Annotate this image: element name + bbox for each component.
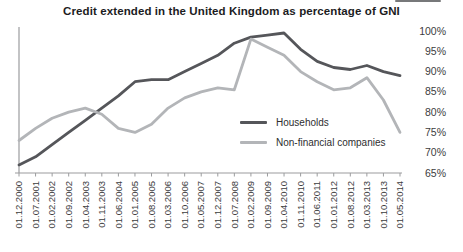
x-tick-label: 01.12.2000: [13, 181, 24, 229]
x-tick-label: 01.01.2012: [328, 181, 339, 229]
x-tick-label: 01.08.2005: [146, 181, 157, 229]
y-tick-label: 90%: [425, 65, 446, 77]
x-tick-label: 01.03.2013: [361, 181, 372, 229]
legend-label: Non-financial companies: [276, 137, 386, 148]
legend: Households Non-financial companies: [240, 116, 386, 149]
legend-swatch: [240, 121, 267, 124]
y-tick-label: 75%: [425, 126, 446, 138]
x-tick-label: 01.11.2003: [96, 181, 107, 228]
y-tick-label: 80%: [425, 106, 446, 118]
x-tick-label: 01.08.2012: [345, 181, 356, 229]
x-tick-label: 01.04.2010: [278, 181, 289, 229]
legend-label: Households: [276, 117, 329, 128]
chart-figure: Credit extended in the United Kingdom as…: [0, 0, 463, 252]
x-tick-label: 01.06.2004: [113, 181, 124, 229]
x-tick-label: 01.01.2005: [129, 181, 140, 229]
legend-item-households: Households: [240, 116, 386, 129]
y-tick-label: 100%: [419, 25, 446, 37]
x-tick-label: 01.05.2014: [394, 181, 405, 229]
legend-swatch: [240, 141, 267, 144]
x-tick-label: 01.07.2001: [30, 181, 41, 229]
x-tick-label: 01.06.2011: [311, 181, 322, 228]
x-tick-label: 01.10.2013: [378, 181, 389, 229]
y-tick-label: 95%: [425, 45, 446, 57]
x-tick-label: 01.11.2010: [295, 181, 306, 228]
y-tick-label: 85%: [425, 85, 446, 97]
y-tick-label: 70%: [425, 146, 446, 158]
x-tick-label: 01.12.2007: [212, 181, 223, 229]
x-tick-label: 01.02.2002: [46, 181, 57, 229]
x-tick-label: 01.05.2007: [195, 181, 206, 229]
line-chart: 01.12.200001.07.200101.02.200201.09.2002…: [0, 0, 463, 252]
legend-item-non-financial-companies: Non-financial companies: [240, 136, 386, 149]
x-tick-label: 01.09.2002: [63, 181, 74, 229]
x-tick-label: 01.10.2006: [179, 181, 190, 229]
y-tick-label: 65%: [425, 167, 446, 179]
x-tick-label: 01.03.2006: [162, 181, 173, 229]
x-tick-label: 01.07.2008: [229, 181, 240, 229]
x-tick-label: 01.04.2003: [80, 181, 91, 229]
x-tick-label: 01.02.2009: [245, 181, 256, 229]
x-tick-label: 01.09.2009: [262, 181, 273, 229]
